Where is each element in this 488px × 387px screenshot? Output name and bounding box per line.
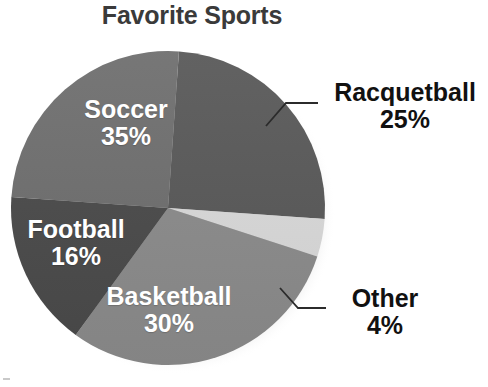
page-edge-artifact: [3, 378, 10, 380]
pie-sheen: [11, 51, 325, 365]
pie-graphic: [0, 0, 488, 387]
pie-chart: Favorite Sports Soccer 35% Football 1: [0, 0, 488, 387]
